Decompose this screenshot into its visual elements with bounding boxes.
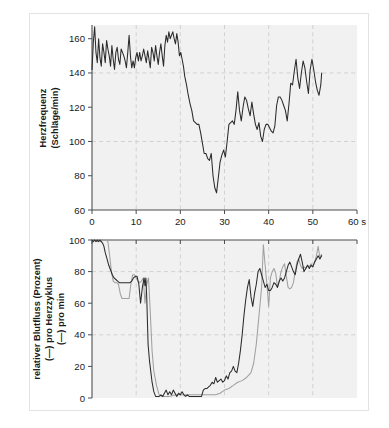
top-y-axis-label: Herzfrequenz (Schläge/min) [38,88,60,149]
y-tick-label: 20 [74,361,85,372]
y-tick-label: 120 [69,102,85,113]
top-y-axis-label-line-1: Herzfrequenz [38,88,48,147]
bottom-y-axis-label-line-2: (—) pro Herzzyklus [44,277,54,361]
y-tick-label: 60 [74,298,85,309]
x-tick-label: 10 [131,216,142,227]
top-y-ticks [88,39,92,210]
bottom-y-tick-labels: 020406080100 [69,235,85,404]
y-tick-label: 100 [69,235,85,246]
y-tick-label: 80 [74,170,85,181]
bottom-y-axis-label-line-3: (—) pro min [56,293,66,345]
y-tick-label: 80 [74,266,85,277]
top-plot-background [92,25,357,210]
top-y-axis-label-line-2: (Schläge/min) [50,88,60,149]
bottom-y-axis-label: relativer Blutfluss (Prozent) (—) pro He… [32,258,66,379]
shared-x-tick-labels: 0102030405060 s [89,216,366,227]
y-tick-label: 100 [69,136,85,147]
x-tick-label: 20 [175,216,186,227]
bottom-y-ticks [88,240,92,398]
y-tick-label: 0 [80,393,85,404]
figure-container: 6080100120140160 Herzfrequenz (Schläge/m… [0,0,389,428]
x-tick-label: 30 [219,216,230,227]
bottom-y-axis-label-line-1: relativer Blutfluss (Prozent) [32,258,42,379]
y-tick-label: 160 [69,33,85,44]
y-tick-label: 60 [74,205,85,216]
top-panel: 6080100120140160 Herzfrequenz (Schläge/m… [38,25,357,216]
chart-svg: 6080100120140160 Herzfrequenz (Schläge/m… [0,0,389,428]
top-x-ticks [92,210,357,214]
y-tick-label: 40 [74,329,85,340]
y-tick-label: 140 [69,67,85,78]
x-tick-label: 40 [263,216,274,227]
top-y-tick-labels: 6080100120140160 [69,33,85,215]
x-tick-label: 0 [89,216,94,227]
x-tick-label: 50 [307,216,318,227]
x-tick-label: 60 s [348,216,366,227]
bottom-panel: 020406080100 relativer Blutfluss (Prozen… [32,235,357,404]
